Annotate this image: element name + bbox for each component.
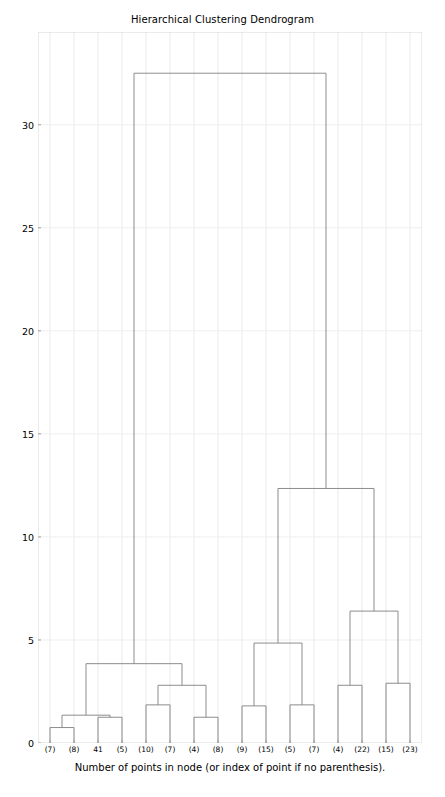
x-axis-label: Number of points in node (or index of po… — [38, 762, 422, 773]
y-axis-tick-label: 0 — [8, 738, 34, 749]
y-axis-tick-label: 10 — [8, 531, 34, 542]
x-axis-tick-label: (23) — [393, 745, 427, 754]
dendrogram-svg — [38, 32, 422, 743]
x-axis-tick-labels: (7)(8)41(5)(10)(7)(4)(8)(9)(15)(5)(7)(4)… — [38, 745, 422, 761]
dendrogram-figure: Hierarchical Clustering Dendrogram 05101… — [0, 0, 445, 797]
y-axis-tick-label: 5 — [8, 634, 34, 645]
plot-area — [38, 32, 422, 743]
page-title: Hierarchical Clustering Dendrogram — [0, 14, 445, 25]
y-axis-tick-label: 30 — [8, 119, 34, 130]
y-axis-tick-labels: 051015202530 — [0, 0, 34, 797]
y-axis-tick-label: 25 — [8, 222, 34, 233]
y-axis-tick-label: 20 — [8, 325, 34, 336]
y-axis-tick-label: 15 — [8, 428, 34, 439]
